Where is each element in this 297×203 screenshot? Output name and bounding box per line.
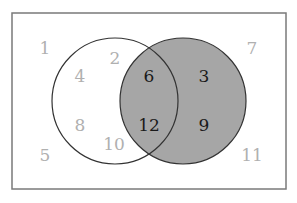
left-only-number-8: 8 [75,115,86,135]
venn-diagram: 1 7 5 11 2 4 8 10 6 12 3 9 [0,0,297,203]
intersection-number-12: 12 [138,115,160,135]
intersection-number-6: 6 [144,66,155,86]
outside-number-1: 1 [40,38,51,58]
outside-number-5: 5 [40,145,51,165]
right-only-number-9: 9 [199,115,210,135]
left-only-number-10: 10 [103,134,125,154]
right-only-number-3: 3 [199,66,210,86]
left-only-number-4: 4 [75,66,86,86]
outside-number-7: 7 [247,38,258,58]
left-only-number-2: 2 [110,48,121,68]
right-set-circle [120,38,246,164]
outside-number-11: 11 [241,145,263,165]
